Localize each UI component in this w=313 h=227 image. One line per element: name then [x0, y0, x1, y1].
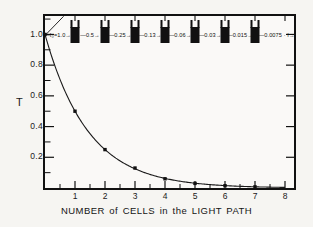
x-axis-tick-label: 5 [193, 191, 198, 201]
flux-label: —0.5→ [80, 32, 99, 38]
y-axis-tick-label: 1.0 [17, 29, 43, 39]
flux-label: —0.0075 · I→ [259, 32, 295, 38]
data-point-marker [223, 184, 226, 187]
y-axis-tick-labels: 0.20.40.60.81.0 [11, 0, 43, 227]
data-point-marker [253, 185, 256, 188]
flux-label: —0.13→ [139, 32, 162, 38]
x-axis-tick-label: 6 [223, 191, 228, 201]
flux-label: —0.03→ [199, 32, 222, 38]
data-point-marker [133, 166, 136, 169]
flux-label: —0.015→ [227, 32, 253, 38]
flux-label: —0.06→ [169, 32, 192, 38]
y-axis-tick-label: 0.8 [17, 59, 43, 69]
plot-frame: —I₀=1.0→—0.5→—0.25→—0.13→—0.06→—0.03→—0.… [43, 14, 296, 190]
x-axis-tick-label: 2 [103, 191, 108, 201]
flux-label: —0.25→ [109, 32, 132, 38]
x-axis-tick-label: 1 [73, 191, 78, 201]
figure-transmittance-vs-cells: T 0.20.40.60.81.0 —I₀=1.0→—0.5→—0.25→—0.… [0, 0, 313, 227]
x-axis-tick-labels: 12345678 [43, 191, 296, 205]
x-axis-caption: NUMBER of CELLS in the LIGHT PATH [0, 205, 313, 216]
data-point-marker [193, 182, 196, 185]
x-axis-tick-label: 3 [133, 191, 138, 201]
data-point-marker [73, 110, 76, 113]
data-point-marker [163, 177, 166, 180]
cuvette-diagram-row: —I₀=1.0→—0.5→—0.25→—0.13→—0.06→—0.03→—0.… [45, 19, 294, 49]
flux-label: —I₀=1.0→ [44, 32, 71, 38]
x-axis-tick-label: 7 [253, 191, 258, 201]
data-curve [45, 34, 285, 187]
x-axis-tick-label: 4 [163, 191, 168, 201]
x-axis-tick-label: 8 [283, 191, 288, 201]
cuvette-icon [70, 20, 81, 43]
y-axis-tick-label: 0.2 [17, 151, 43, 161]
y-axis-tick-label: 0.6 [17, 90, 43, 100]
y-axis-tick-label: 0.4 [17, 121, 43, 131]
cuvette-body [70, 27, 80, 43]
data-point-marker [103, 148, 106, 151]
